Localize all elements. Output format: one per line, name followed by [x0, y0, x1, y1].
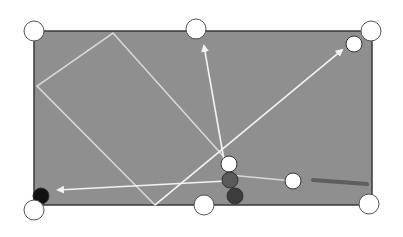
pocket-top-right	[361, 21, 381, 41]
pocket-bottom-right	[359, 194, 379, 214]
gray-ball	[222, 172, 238, 188]
pocket-bottom-middle	[194, 195, 214, 215]
white-object-ball-cluster	[221, 156, 237, 172]
dark-gray-ball	[227, 188, 243, 204]
diagram-canvas	[0, 0, 403, 237]
pocket-top-left	[24, 21, 44, 41]
pocket-top-middle	[186, 19, 206, 39]
pocket-bottom-left	[24, 200, 44, 220]
white-object-ball-top-right	[346, 36, 362, 52]
cue-ball	[285, 173, 301, 189]
billiards-diagram	[0, 0, 403, 237]
